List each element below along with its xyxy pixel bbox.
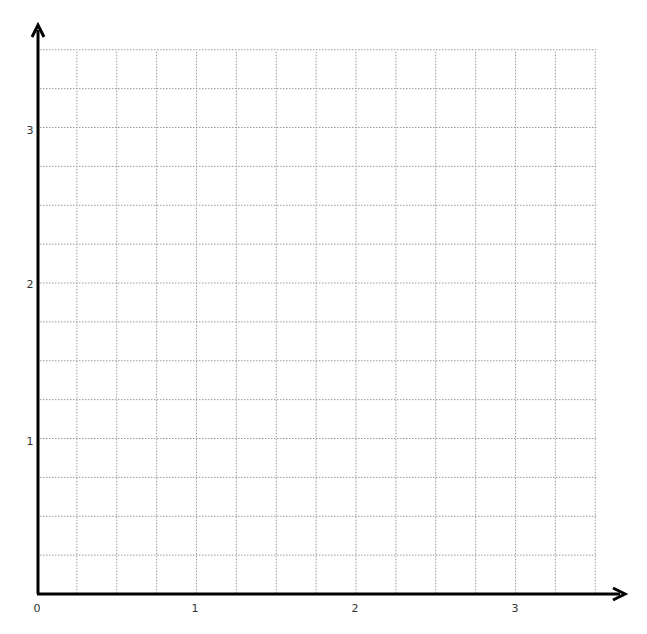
y-tick-label-2: 2 (27, 278, 34, 291)
x-tick-label-3: 3 (512, 602, 519, 615)
x-tick-label-1: 1 (192, 602, 199, 615)
y-tick-label-1: 1 (27, 435, 34, 448)
x-tick-label-0: 0 (34, 602, 41, 615)
x-tick-label-2: 2 (352, 602, 359, 615)
y-tick-label-3: 3 (27, 124, 34, 137)
grid-lines (37, 50, 596, 594)
coordinate-grid-chart: 0 1 2 3 3 2 1 (0, 0, 647, 634)
